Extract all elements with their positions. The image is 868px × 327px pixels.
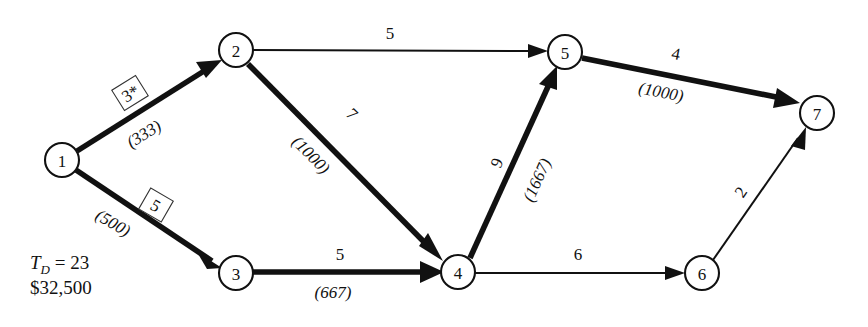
edge-5-7-duration-label: 4 bbox=[670, 44, 682, 64]
edge-6-7-line bbox=[713, 138, 798, 260]
edge-4-5-cost-label: (1667) bbox=[519, 155, 555, 204]
duration-symbol: T bbox=[30, 252, 41, 273]
project-summary: TD = 23 $32,500 bbox=[30, 252, 92, 300]
node-1-label: 1 bbox=[58, 152, 67, 171]
edge-1-2-duration-box: 3* bbox=[112, 75, 148, 110]
edge-3-4-cost-label: (667) bbox=[315, 283, 352, 302]
node-4-label: 4 bbox=[454, 264, 463, 283]
edge-4-5[interactable]: 9 (1667) bbox=[470, 66, 557, 258]
edge-2-5-arrowhead bbox=[528, 44, 548, 58]
node-5[interactable]: 5 bbox=[548, 35, 582, 69]
node-6[interactable]: 6 bbox=[685, 256, 719, 290]
network-graph: 3* (333) 5 (500) 5 7 (1000) bbox=[0, 0, 868, 327]
node-3[interactable]: 3 bbox=[219, 256, 253, 290]
edge-5-7[interactable]: 4 (1000) bbox=[582, 44, 800, 108]
edge-2-4-duration-label: 7 bbox=[342, 104, 362, 124]
edge-5-7-line bbox=[582, 58, 786, 99]
node-6-label: 6 bbox=[698, 265, 707, 284]
edge-2-5-line bbox=[253, 50, 536, 51]
edge-5-7-cost-label: (1000) bbox=[637, 78, 685, 105]
edge-4-5-arrowhead bbox=[539, 66, 557, 90]
project-cost-row: $32,500 bbox=[30, 277, 92, 299]
edge-2-4-cost-label: (1000) bbox=[288, 132, 334, 178]
edge-2-4-line bbox=[248, 64, 432, 250]
edge-4-6-duration-label: 6 bbox=[574, 245, 583, 264]
edge-6-7[interactable]: 2 bbox=[713, 127, 806, 260]
node-7[interactable]: 7 bbox=[800, 96, 834, 130]
node-7-label: 7 bbox=[813, 105, 822, 124]
edge-2-5[interactable]: 5 bbox=[253, 24, 548, 59]
node-2-label: 2 bbox=[232, 42, 241, 61]
edge-6-7-duration-label: 2 bbox=[731, 183, 751, 201]
edge-1-2[interactable]: 3* (333) bbox=[77, 60, 222, 152]
edge-1-3-arrowhead bbox=[197, 252, 222, 269]
edge-2-5-duration-label: 5 bbox=[386, 24, 395, 43]
node-1[interactable]: 1 bbox=[45, 143, 79, 177]
edge-6-7-arrowhead bbox=[791, 127, 806, 150]
node-5-label: 5 bbox=[561, 44, 570, 63]
edge-1-3-cost-label: (500) bbox=[92, 206, 134, 241]
edge-4-5-duration-label: 9 bbox=[487, 155, 508, 170]
edge-4-6[interactable]: 6 bbox=[475, 245, 685, 281]
edge-2-4[interactable]: 7 (1000) bbox=[248, 64, 443, 261]
node-4[interactable]: 4 bbox=[441, 255, 475, 289]
edge-1-2-cost-label: (333) bbox=[123, 116, 165, 152]
edge-3-4-duration-label: 5 bbox=[336, 245, 345, 264]
duration-subscript: D bbox=[41, 262, 50, 277]
edge-4-6-arrowhead bbox=[665, 266, 685, 280]
edge-3-4[interactable]: 5 (667) bbox=[253, 245, 444, 302]
duration-equals: = bbox=[55, 252, 66, 273]
network-diagram-canvas: 3* (333) 5 (500) 5 7 (1000) bbox=[0, 0, 868, 327]
edge-1-3[interactable]: 5 (500) bbox=[76, 170, 222, 269]
duration-value: 23 bbox=[70, 252, 89, 273]
node-3-label: 3 bbox=[232, 265, 241, 284]
node-2[interactable]: 2 bbox=[219, 33, 253, 67]
edge-5-7-arrowhead bbox=[773, 88, 800, 108]
project-duration-row: TD = 23 bbox=[30, 252, 92, 277]
